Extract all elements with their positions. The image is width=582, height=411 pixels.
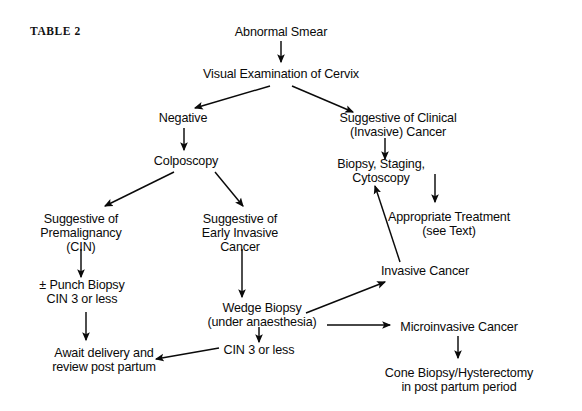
node-punch-biopsy-cin3-or-less: ± Punch Biopsy CIN 3 or less: [22, 278, 142, 306]
node-suggestive-of-premalignancy-cin: Suggestive of Premalignancy (CIN): [20, 212, 142, 255]
node-negative: Negative: [143, 111, 223, 125]
node-visual-examination-of-cervix: Visual Examination of Cervix: [181, 67, 381, 81]
node-abnormal-smear: Abnormal Smear: [221, 25, 341, 39]
node-appropriate-treatment-see-text: Appropriate Treatment (see Text): [374, 210, 524, 238]
arrow-colposcopy-to-suggestive-early-invasive: [215, 172, 243, 206]
node-cin3-or-less: CIN 3 or less: [215, 343, 303, 357]
node-colposcopy: Colposcopy: [146, 154, 226, 168]
table-label: TABLE 2: [30, 25, 81, 37]
node-wedge-biopsy-under-anaesthesia: Wedge Biopsy (under anaesthesia): [196, 301, 328, 329]
node-await-delivery-review-post-partum: Await delivery and review post partum: [30, 346, 178, 374]
node-biopsy-staging-cytoscopy: Biopsy, Staging, Cytoscopy: [326, 157, 436, 185]
node-suggestive-of-early-invasive-cancer: Suggestive of Early Invasive Cancer: [184, 212, 296, 255]
node-invasive-cancer: Invasive Cancer: [378, 264, 472, 278]
node-microinvasive-cancer: Microinvasive Cancer: [392, 320, 526, 334]
arrow-visual-exam-to-negative: [195, 86, 270, 108]
node-cone-biopsy-hysterectomy-in-post-partum-period: Cone Biopsy/Hysterectomy in post partum …: [372, 366, 546, 394]
node-suggestive-of-clinical-invasive-cancer: Suggestive of Clinical (Invasive) Cancer: [328, 111, 468, 139]
flowchart-figure: TABLE 2 Abnormal Smear Visual Examinatio…: [0, 0, 582, 411]
arrow-visual-exam-to-suggestive-clinical: [292, 86, 353, 112]
arrow-colposcopy-to-suggestive-premalignancy: [105, 172, 174, 206]
